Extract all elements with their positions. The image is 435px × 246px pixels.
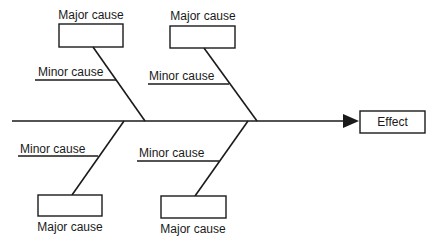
effect-label: Effect [377,115,408,129]
cause-bottom-left: Minor cause Major cause [18,121,124,234]
major-cause-label: Major cause [58,8,124,22]
minor-cause-label: Minor cause [20,142,86,156]
major-cause-box [38,195,102,216]
cause-top-left: Major cause Minor cause [35,8,145,121]
cause-top-right: Major cause Minor cause [148,9,257,121]
effect-node: Effect [360,111,425,133]
major-cause-label: Major cause [37,220,103,234]
minor-cause-label: Minor cause [149,69,215,83]
major-cause-bone [93,47,145,121]
major-cause-label: Major cause [160,222,226,236]
spine-arrowhead [343,114,359,128]
major-cause-bone [72,121,124,195]
major-cause-label: Major cause [170,9,236,23]
cause-bottom-right: Minor cause Major cause [137,121,248,236]
minor-cause-label: Minor cause [38,65,104,79]
major-cause-box [161,196,226,218]
fishbone-diagram: Effect Major cause Minor cause Major cau… [0,0,435,246]
major-cause-box [170,26,235,48]
major-cause-box [59,24,123,47]
minor-cause-label: Minor cause [139,146,205,160]
